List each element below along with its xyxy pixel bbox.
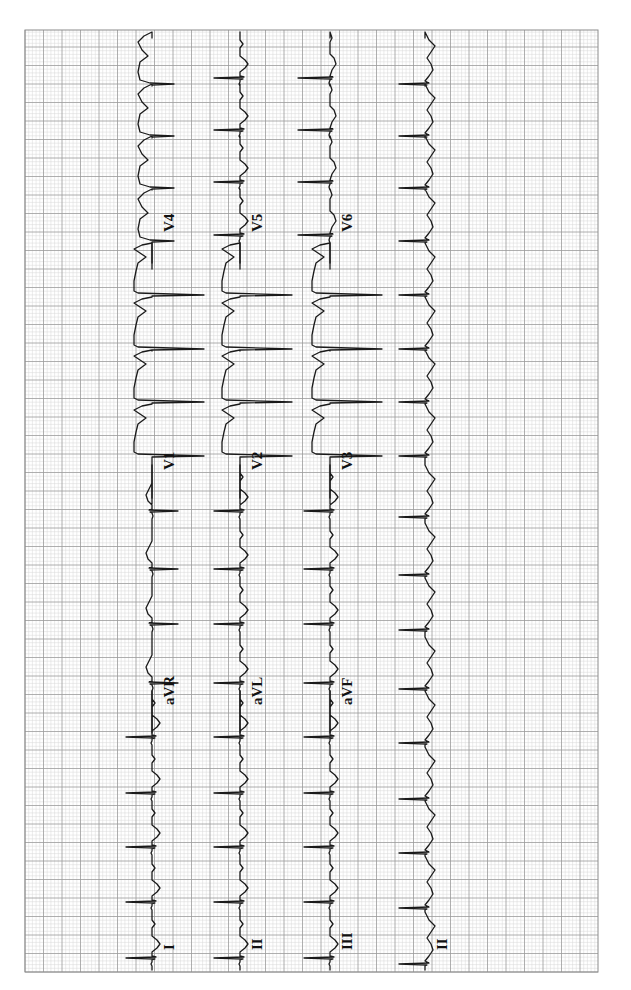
- lead-label-v5: V5: [249, 214, 265, 232]
- lead-labels: IaVRV1V4IIaVLV2V5IIIaVFV3V6II: [161, 213, 450, 950]
- grid-major-lines: [25, 30, 598, 972]
- lead-label-v6: V6: [339, 213, 355, 232]
- lead-label-v4: V4: [161, 213, 177, 232]
- ecg-trace-avl: [214, 465, 248, 733]
- lead-label-avf: aVF: [339, 678, 355, 706]
- lead-label-v2: V2: [249, 452, 265, 470]
- grid-border: [25, 30, 598, 972]
- grid-minor-lines: [25, 30, 598, 972]
- lead-label-avr: aVR: [161, 676, 177, 705]
- lead-label-i: I: [161, 944, 177, 950]
- lead-label-v3: V3: [339, 452, 355, 470]
- ecg-trace-ii: [214, 691, 248, 970]
- lead-label-ii: II: [434, 938, 450, 950]
- lead-label-ii: II: [249, 938, 265, 950]
- ecg-sheet: IaVRV1V4IIaVLV2V5IIIaVFV3V6II: [0, 0, 631, 990]
- lead-label-avl: aVL: [249, 677, 265, 705]
- lead-label-v1: V1: [161, 452, 177, 470]
- lead-label-iii: III: [339, 932, 355, 950]
